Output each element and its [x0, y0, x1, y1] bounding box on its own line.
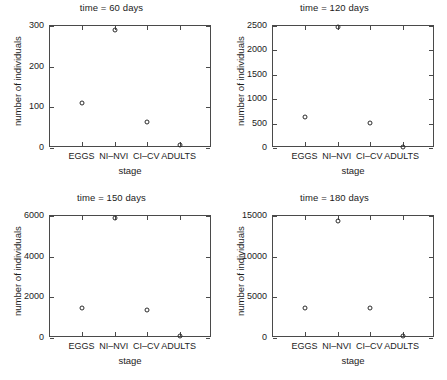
data-point-marker	[368, 305, 373, 310]
data-point-marker	[303, 114, 308, 119]
y-axis-tick	[273, 50, 277, 51]
y-axis-tick	[50, 297, 54, 298]
x-axis-tick	[147, 142, 148, 146]
x-axis-tick	[82, 332, 83, 336]
x-axis-title: stage	[118, 165, 141, 176]
y-axis-tick	[273, 148, 277, 149]
x-axis-tick-top	[305, 216, 306, 220]
y-axis-tick-right	[206, 257, 210, 258]
y-axis-tick-right	[429, 257, 433, 258]
plot-area	[49, 215, 211, 337]
data-point-marker	[145, 307, 150, 312]
y-axis-tick-right	[429, 124, 433, 125]
x-axis-tick-top	[370, 216, 371, 220]
y-axis-tick	[273, 26, 277, 27]
y-axis-tick	[273, 338, 277, 339]
data-point-marker	[177, 333, 182, 338]
x-tick-label: CI–CV	[133, 341, 160, 351]
y-axis-title: number of individuals	[235, 226, 246, 316]
y-tick-label: 0	[0, 332, 44, 342]
y-axis-tick	[50, 216, 54, 217]
y-axis-tick	[50, 107, 54, 108]
y-axis-tick	[50, 257, 54, 258]
x-tick-label: EGGS	[68, 341, 94, 351]
y-axis-tick	[273, 75, 277, 76]
y-axis-tick-right	[429, 338, 433, 339]
subplot-time-120-days: time = 120 daysEGGSNI–NVICI–CVADULTS0500…	[223, 0, 446, 190]
x-axis-tick	[305, 142, 306, 146]
data-point-marker	[335, 218, 340, 223]
x-axis-tick	[82, 142, 83, 146]
x-axis-tick	[338, 142, 339, 146]
x-tick-label: EGGS	[68, 151, 94, 161]
x-axis-tick-top	[82, 26, 83, 30]
y-tick-label: 2500	[223, 20, 267, 30]
x-tick-label: NI–NVI	[322, 151, 351, 161]
y-axis-tick-right	[429, 50, 433, 51]
y-axis-tick-right	[429, 99, 433, 100]
y-axis-tick	[273, 216, 277, 217]
x-tick-label: ADULTS	[161, 341, 196, 351]
subplot-title: time = 60 days	[0, 2, 223, 13]
x-tick-label: ADULTS	[384, 151, 419, 161]
x-axis-tick-top	[180, 26, 181, 30]
x-tick-label: ADULTS	[161, 151, 196, 161]
x-axis-tick-top	[82, 216, 83, 220]
y-axis-tick	[50, 338, 54, 339]
y-axis-tick	[273, 297, 277, 298]
plot-area	[49, 25, 211, 147]
data-point-marker	[177, 142, 182, 147]
subplot-time-150-days: time = 150 daysEGGSNI–NVICI–CVADULTS0200…	[0, 190, 223, 380]
plot-area	[272, 215, 434, 337]
y-tick-label: 15000	[223, 210, 267, 220]
data-point-marker	[400, 144, 405, 149]
x-tick-label: CI–CV	[133, 151, 160, 161]
y-axis-title: number of individuals	[12, 226, 23, 316]
data-point-marker	[112, 28, 117, 33]
y-axis-tick	[50, 148, 54, 149]
data-point-marker	[368, 121, 373, 126]
y-axis-tick-right	[206, 148, 210, 149]
y-axis-tick-right	[206, 338, 210, 339]
subplot-title: time = 120 days	[223, 2, 446, 13]
x-axis-tick	[305, 332, 306, 336]
y-axis-tick-right	[206, 26, 210, 27]
subplot-time-180-days: time = 180 daysEGGSNI–NVICI–CVADULTS0500…	[223, 190, 446, 380]
x-axis-tick-top	[147, 26, 148, 30]
data-point-marker	[112, 216, 117, 221]
x-axis-title: stage	[341, 165, 364, 176]
subplot-title: time = 150 days	[0, 192, 223, 203]
x-axis-tick-top	[305, 26, 306, 30]
x-tick-label: CI–CV	[356, 341, 383, 351]
y-axis-tick	[273, 99, 277, 100]
y-axis-tick-right	[429, 148, 433, 149]
x-axis-tick	[338, 332, 339, 336]
y-tick-label: 0	[223, 142, 267, 152]
x-axis-tick	[370, 332, 371, 336]
y-axis-tick	[273, 257, 277, 258]
y-axis-tick-right	[429, 216, 433, 217]
x-axis-tick-top	[147, 216, 148, 220]
y-axis-title: number of individuals	[235, 36, 246, 126]
y-axis-tick-right	[429, 75, 433, 76]
data-point-marker	[400, 334, 405, 339]
data-point-marker	[80, 305, 85, 310]
x-axis-tick-top	[370, 26, 371, 30]
x-tick-label: EGGS	[291, 151, 317, 161]
subplot-title: time = 180 days	[223, 192, 446, 203]
x-axis-tick	[370, 142, 371, 146]
x-axis-tick-top	[403, 216, 404, 220]
x-tick-label: ADULTS	[384, 341, 419, 351]
x-axis-title: stage	[118, 355, 141, 366]
data-point-marker	[80, 101, 85, 106]
y-axis-tick	[273, 124, 277, 125]
x-axis-title: stage	[341, 355, 364, 366]
y-axis-tick-right	[206, 67, 210, 68]
y-axis-tick-right	[429, 26, 433, 27]
y-tick-label: 6000	[0, 210, 44, 220]
subplot-time-60-days: time = 60 daysEGGSNI–NVICI–CVADULTS01002…	[0, 0, 223, 190]
y-axis-tick-right	[206, 107, 210, 108]
x-tick-label: NI–NVI	[322, 341, 351, 351]
x-axis-tick-top	[180, 216, 181, 220]
x-tick-label: CI–CV	[356, 151, 383, 161]
